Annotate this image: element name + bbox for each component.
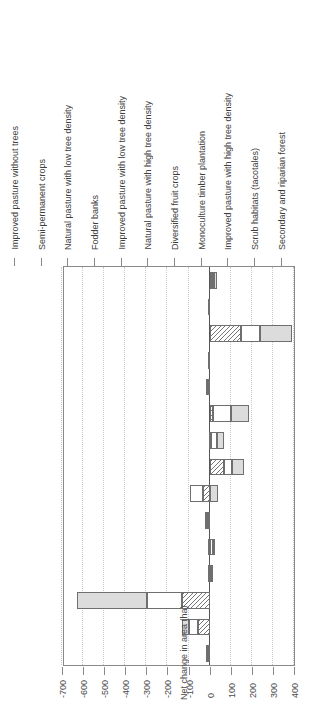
value-tick-label: -300 — [142, 680, 152, 698]
bar-group — [64, 539, 294, 556]
bar-segment — [206, 645, 208, 662]
bar-group — [64, 352, 294, 369]
value-tick-label: 100 — [227, 683, 237, 698]
rotated-figure-container: 4003002001000-100-200-300-400-500-600-70… — [0, 0, 315, 708]
bar-segment — [210, 325, 242, 342]
value-tick-label: -700 — [58, 680, 68, 698]
bar-segment — [205, 512, 207, 529]
value-tick-label: -600 — [79, 680, 89, 698]
category-tick-label: Natural pasture with low tree density — [62, 0, 74, 254]
value-tick — [231, 667, 232, 675]
bar-group — [64, 325, 294, 342]
value-tick — [146, 667, 147, 675]
bar-segment — [213, 539, 215, 556]
bar-group — [64, 512, 294, 529]
category-tick-label: Improved pasture with low tree density — [116, 0, 128, 254]
value-tick-label: -500 — [100, 680, 110, 698]
bar-group — [64, 485, 294, 502]
bar-group — [64, 299, 294, 316]
bar-segment — [214, 272, 217, 289]
value-tick — [294, 667, 295, 675]
category-tick — [121, 258, 122, 266]
bar-segment — [224, 459, 232, 476]
category-tick — [94, 258, 95, 266]
value-tick — [83, 667, 84, 675]
bar-segment — [260, 325, 292, 342]
bar-segment — [190, 485, 203, 502]
value-tick-label: -200 — [163, 680, 173, 698]
value-tick — [167, 667, 168, 675]
bar-segment — [211, 565, 213, 582]
value-tick-label: 0 — [206, 693, 216, 698]
bar-segment — [206, 379, 208, 396]
bar-segment — [198, 619, 210, 636]
category-tick-label: Monoculture timber plantation — [196, 0, 208, 254]
category-tick — [281, 258, 282, 266]
value-tick-label: 400 — [290, 683, 300, 698]
category-tick — [147, 258, 148, 266]
value-tick — [104, 667, 105, 675]
value-tick — [210, 667, 211, 675]
category-tick — [67, 258, 68, 266]
category-tick-label: Diversified fruit crops — [169, 0, 181, 254]
value-tick — [125, 667, 126, 675]
bar-group — [64, 379, 294, 396]
category-tick-label: Secondary and riparian forest — [276, 0, 288, 254]
category-tick — [227, 258, 228, 266]
value-tick — [252, 667, 253, 675]
value-tick-label: -400 — [121, 680, 131, 698]
bar-segment — [210, 485, 218, 502]
bar-group — [64, 432, 294, 449]
chart-figure: 4003002001000-100-200-300-400-500-600-70… — [0, 0, 315, 708]
gridline — [61, 267, 62, 665]
bar-segment — [232, 459, 244, 476]
bar-group — [64, 272, 294, 289]
category-tick — [201, 258, 202, 266]
category-tick — [41, 258, 42, 266]
bar-segment — [241, 325, 260, 342]
bar-segment — [217, 432, 224, 449]
category-tick-label: Natural pasture with high tree density — [142, 0, 154, 254]
bar-group — [64, 565, 294, 582]
bar-segment — [231, 405, 249, 422]
category-tick-label: Improved pasture with high tree density — [222, 0, 234, 254]
category-tick-label: Improved pasture without trees — [9, 0, 21, 254]
category-tick — [174, 258, 175, 266]
bar-segment — [210, 459, 225, 476]
bar-group — [64, 405, 294, 422]
value-tick — [273, 667, 274, 675]
bar-segment — [189, 619, 198, 636]
value-tick-label: 300 — [269, 683, 279, 698]
bar-segment — [147, 592, 182, 609]
value-tick-label: 200 — [248, 683, 258, 698]
value-tick — [62, 667, 63, 675]
value-axis-title: Net change in area (ha) — [179, 605, 189, 700]
bar-segment — [213, 405, 232, 422]
category-tick — [14, 258, 15, 266]
category-tick — [254, 258, 255, 266]
bar-segment — [77, 592, 148, 609]
category-tick-label: Semi-permanent crops — [36, 0, 48, 254]
category-tick-label: Scrub habitats (tacotales) — [249, 0, 261, 254]
bar-segment — [208, 352, 210, 369]
bar-segment — [208, 299, 210, 316]
bar-group — [64, 459, 294, 476]
category-tick-label: Fodder banks — [89, 0, 101, 254]
